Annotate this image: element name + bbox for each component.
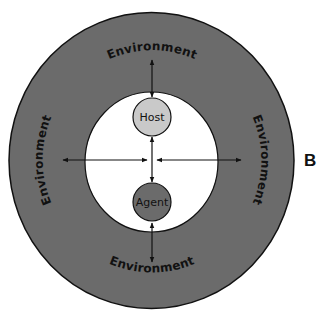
agent-label: Agent	[136, 196, 169, 209]
epidemiologic-triad-diagram: Environment Environment Environment Envi…	[0, 0, 326, 317]
host-label: Host	[139, 111, 165, 124]
agent-node: Agent	[133, 183, 171, 221]
host-node: Host	[133, 98, 171, 136]
panel-label: B	[304, 152, 316, 169]
